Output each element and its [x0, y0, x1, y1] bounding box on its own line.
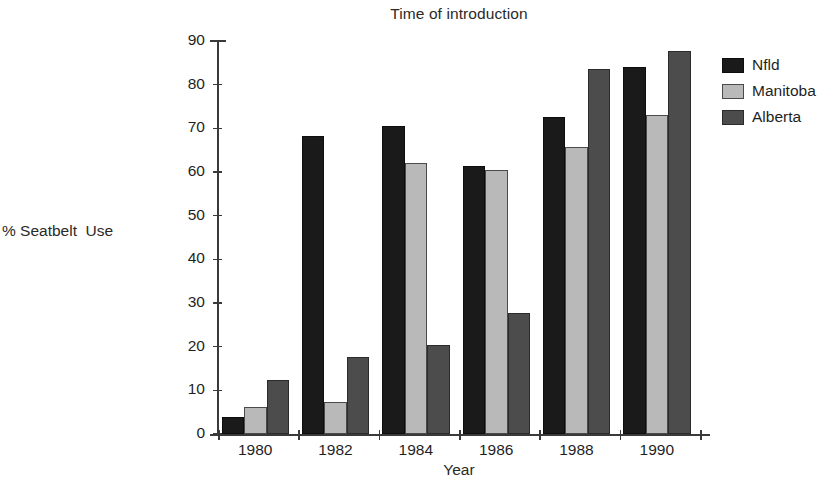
bar-manitoba-1990	[646, 115, 669, 434]
bar-nfld-1986	[463, 166, 486, 434]
y-tick-label-30: 30	[165, 293, 205, 311]
legend-swatch-manitoba	[722, 84, 744, 99]
x-tick-label-1986: 1986	[466, 441, 526, 459]
legend-item-nfld: Nfld	[722, 52, 816, 78]
bar-manitoba-1982	[324, 402, 347, 434]
x-tick-label-1988: 1988	[547, 441, 607, 459]
legend-label-alberta: Alberta	[752, 108, 801, 126]
legend-swatch-alberta	[722, 110, 744, 125]
bar-nfld-1984	[382, 126, 405, 434]
y-tick-label-10: 10	[165, 380, 205, 398]
x-axis-title: Year	[218, 461, 700, 479]
y-tick-label-50: 50	[165, 206, 205, 224]
bar-nfld-1982	[302, 136, 325, 434]
y-tick-label-60: 60	[165, 162, 205, 180]
y-tick-label-0: 0	[165, 424, 205, 442]
y-tick-label-80: 80	[165, 75, 205, 93]
y-tick-label-90: 90	[165, 31, 205, 49]
bar-alberta-1986	[508, 313, 531, 434]
bar-alberta-1980	[267, 380, 290, 434]
x-tick-label-1990: 1990	[627, 441, 687, 459]
x-tick-label-1982: 1982	[306, 441, 366, 459]
bar-alberta-1988	[588, 69, 611, 434]
legend-item-manitoba: Manitoba	[722, 78, 816, 104]
legend-swatch-nfld	[722, 58, 744, 73]
x-tick-label-1984: 1984	[386, 441, 446, 459]
bar-manitoba-1986	[485, 170, 508, 434]
chart-legend: NfldManitobaAlberta	[722, 52, 816, 130]
legend-item-alberta: Alberta	[722, 104, 816, 130]
bar-nfld-1990	[623, 67, 646, 434]
y-tick-label-20: 20	[165, 337, 205, 355]
seatbelt-use-bar-chart: Time of introduction % Seatbelt Use Year…	[0, 0, 837, 487]
plot-area	[218, 41, 700, 434]
bar-alberta-1982	[347, 357, 370, 434]
bar-manitoba-1988	[565, 147, 588, 434]
chart-title: Time of introduction	[218, 5, 700, 23]
y-tick-label-40: 40	[165, 249, 205, 267]
x-tick-label-1980: 1980	[225, 441, 285, 459]
y-tick-label-70: 70	[165, 118, 205, 136]
bar-nfld-1980	[222, 417, 245, 434]
bar-alberta-1984	[427, 345, 450, 434]
y-axis-title: % Seatbelt Use	[2, 222, 113, 240]
legend-label-manitoba: Manitoba	[752, 82, 816, 100]
bar-nfld-1988	[543, 117, 566, 434]
bar-manitoba-1984	[405, 163, 428, 434]
x-tick-end	[700, 430, 702, 440]
bar-manitoba-1980	[244, 407, 267, 435]
bar-alberta-1990	[668, 51, 691, 434]
legend-label-nfld: Nfld	[752, 56, 780, 74]
